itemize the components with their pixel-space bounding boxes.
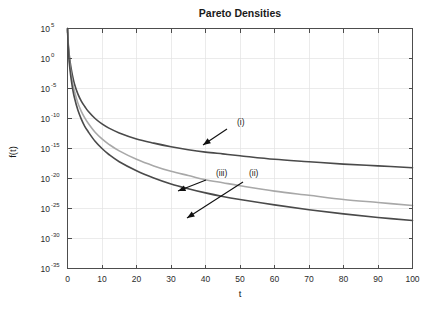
y-tick-mantissa: 10 <box>41 234 51 244</box>
x-tick-label: 90 <box>373 274 383 284</box>
x-tick-label: 50 <box>235 274 245 284</box>
x-tick-label: 20 <box>132 274 142 284</box>
x-tick-label: 60 <box>270 274 280 284</box>
y-tick-exponent: -5 <box>51 82 57 88</box>
y-tick-mantissa: 10 <box>41 174 51 184</box>
x-tick-label: 0 <box>65 274 70 284</box>
annotation-label-i: (i) <box>237 117 245 127</box>
x-tick-label: 10 <box>97 274 107 284</box>
y-tick-exponent: -35 <box>51 262 60 268</box>
x-tick-label: 80 <box>339 274 349 284</box>
y-tick-exponent: -25 <box>51 202 60 208</box>
annotation-label-ii: (ii) <box>249 168 259 178</box>
y-tick-mantissa: 10 <box>41 24 51 34</box>
x-tick-label: 40 <box>201 274 211 284</box>
x-tick-label: 70 <box>304 274 314 284</box>
y-tick-exponent: -10 <box>51 112 60 118</box>
pareto-densities-chart: 10510010-510-1010-1510-2010-2510-3010-35… <box>0 0 443 309</box>
y-tick-exponent: -30 <box>51 232 60 238</box>
y-tick-mantissa: 10 <box>41 204 51 214</box>
y-tick-exponent: -20 <box>51 172 60 178</box>
x-tick-label: 30 <box>166 274 176 284</box>
y-tick-mantissa: 10 <box>41 264 51 274</box>
y-tick-mantissa: 10 <box>41 114 51 124</box>
y-tick-exponent: -15 <box>51 142 60 148</box>
y-axis-label: f(t) <box>7 146 18 158</box>
y-tick-mantissa: 10 <box>41 84 51 94</box>
chart-title: Pareto Densities <box>199 7 281 19</box>
x-axis-label: t <box>239 288 242 299</box>
figure-container: 10510010-510-1010-1510-2010-2510-3010-35… <box>0 0 443 309</box>
annotation-label-iii: (iii) <box>216 168 227 178</box>
y-tick-mantissa: 10 <box>41 144 51 154</box>
x-tick-label: 100 <box>405 274 419 284</box>
y-tick-mantissa: 10 <box>41 54 51 64</box>
